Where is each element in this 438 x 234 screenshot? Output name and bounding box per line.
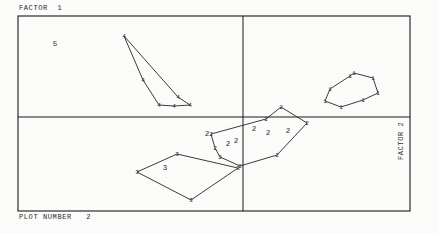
cluster-point-marker-4-5: 4 [176,94,180,101]
plot-frame [18,16,410,211]
cluster-point-marker-3-1: 3 [175,151,179,158]
cluster-annotation-5-0: 5 [53,40,58,48]
factor-2-axis-label: FACTOR 2 [398,122,405,160]
cluster-outline-3 [137,154,238,200]
cluster-point-marker-1-3: 1 [352,70,356,77]
cluster-point-marker-3-0: 3 [135,169,139,176]
cluster-point-marker-4-1: 4 [141,77,145,84]
cluster-point-marker-2-1: 2 [264,116,268,123]
cluster-point-marker-4-0: 4 [122,33,126,40]
cluster-annotation-3-7: 3 [163,164,168,172]
cluster-outline-4 [124,36,190,106]
cluster-annotation-2-1: 2 [205,130,210,138]
cluster-group-1: 11111111 [323,70,380,111]
plot-number-caption: PLOT NUMBER 2 [19,214,91,221]
cluster-point-marker-3-2: 3 [236,165,240,172]
cluster-point-marker-1-6: 1 [361,97,365,104]
factor-1-axis-label: FACTOR 1 [19,5,62,12]
cluster-point-marker-2-4: 2 [275,152,279,159]
cluster-point-marker-2-3: 2 [305,120,309,127]
cluster-point-marker-2-2: 2 [279,104,283,111]
cluster-group-2: 22222222 [209,104,309,170]
cluster-point-marker-2-0: 2 [209,131,213,138]
cluster-point-marker-4-3: 4 [172,103,176,110]
cluster-point-marker-2-6: 2 [218,154,222,161]
cluster-annotation-2-6: 2 [286,127,291,135]
cluster-point-marker-1-4: 1 [371,75,375,82]
cluster-point-marker-1-5: 1 [376,90,380,97]
cluster-annotation-2-5: 2 [266,129,271,137]
cluster-group-4: 444444 [122,33,192,110]
cluster-annotation-2-2: 2 [226,140,231,148]
cluster-annotation-2-3: 2 [234,137,239,145]
cluster-point-marker-2-7: 2 [213,145,217,152]
plot-canvas: 1111111122222222333344444452222223 [0,0,438,234]
cluster-point-marker-1-1: 1 [328,86,332,93]
cluster-annotation-2-4: 2 [252,125,257,133]
cluster-point-marker-1-0: 1 [323,98,327,105]
scatter-plot-figure: 1111111122222222333344444452222223 FACTO… [0,0,438,234]
cluster-point-marker-4-4: 4 [188,102,192,109]
cluster-outline-2 [211,107,307,166]
cluster-point-marker-4-2: 4 [157,102,161,109]
cluster-point-marker-1-7: 1 [339,104,343,111]
cluster-point-marker-3-3: 3 [189,197,193,204]
